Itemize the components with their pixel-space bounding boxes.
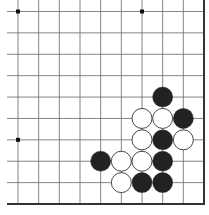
white-stone[interactable] — [173, 130, 193, 150]
star-point-icon — [16, 138, 20, 142]
black-stone[interactable] — [173, 108, 193, 128]
star-point-icon — [140, 10, 144, 14]
black-stone[interactable] — [153, 173, 173, 193]
black-stone[interactable] — [153, 130, 173, 150]
white-stone[interactable] — [153, 108, 173, 128]
white-stone[interactable] — [132, 130, 152, 150]
black-stone[interactable] — [91, 151, 111, 171]
black-stone[interactable] — [153, 151, 173, 171]
white-stone[interactable] — [132, 108, 152, 128]
black-stone[interactable] — [153, 87, 173, 107]
white-stone[interactable] — [132, 151, 152, 171]
go-board-grid[interactable] — [0, 0, 209, 215]
white-stone[interactable] — [111, 173, 131, 193]
star-point-icon — [16, 10, 20, 14]
go-board[interactable] — [0, 0, 209, 215]
black-stone[interactable] — [132, 173, 152, 193]
white-stone[interactable] — [111, 151, 131, 171]
